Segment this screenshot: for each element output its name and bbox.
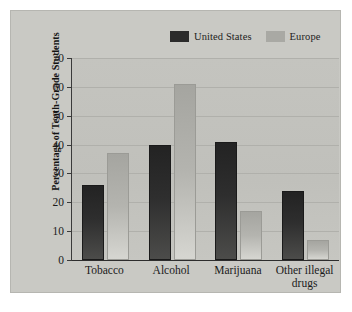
y-axis-tick-label: 40 bbox=[53, 139, 65, 151]
y-axis-tick-label: 70 bbox=[53, 52, 65, 64]
y-axis-tick bbox=[67, 116, 72, 117]
bar-alcohol-united-states bbox=[149, 145, 171, 260]
legend-label-europe: Europe bbox=[290, 31, 321, 42]
legend-entry-europe: Europe bbox=[266, 31, 321, 42]
gridline bbox=[72, 87, 339, 88]
y-axis-tick bbox=[67, 58, 72, 59]
y-axis-tick-label: 60 bbox=[53, 81, 65, 93]
legend-swatch-united-states bbox=[170, 31, 189, 42]
plot-area: 010203040506070 bbox=[71, 58, 339, 261]
y-axis-tick bbox=[67, 87, 72, 88]
chart-card: United States Europe Percentage of Tenth… bbox=[10, 10, 341, 293]
bar-marijuana-united-states bbox=[215, 142, 237, 260]
y-axis-tick-label: 10 bbox=[53, 225, 65, 237]
legend-entry-united-states: United States bbox=[170, 31, 252, 42]
gridline bbox=[72, 58, 339, 59]
legend-swatch-europe bbox=[266, 31, 285, 42]
y-axis-tick bbox=[67, 145, 72, 146]
chart-legend: United States Europe bbox=[170, 28, 321, 44]
y-axis-tick bbox=[67, 231, 72, 232]
x-axis-label-line: Other illegal bbox=[266, 264, 344, 277]
y-axis-tick-label: 30 bbox=[53, 167, 65, 179]
y-axis-tick-label: 50 bbox=[53, 110, 65, 122]
bar-other-illegal-drugs-united-states bbox=[282, 191, 304, 260]
y-axis-tick bbox=[67, 260, 72, 261]
bar-alcohol-europe bbox=[174, 84, 196, 260]
x-axis-label-line: drugs bbox=[266, 277, 344, 290]
bar-other-illegal-drugs-europe bbox=[307, 240, 329, 260]
y-axis-tick bbox=[67, 173, 72, 174]
y-axis-tick-label: 20 bbox=[53, 196, 65, 208]
gridline bbox=[72, 145, 339, 146]
y-axis-tick-label: 0 bbox=[58, 254, 64, 266]
bar-tobacco-europe bbox=[107, 153, 129, 260]
chart-figure: United States Europe Percentage of Tenth… bbox=[0, 0, 352, 312]
y-axis-tick bbox=[67, 202, 72, 203]
legend-label-united-states: United States bbox=[194, 31, 252, 42]
x-axis-label-other-illegal-drugs: Other illegaldrugs bbox=[266, 264, 344, 290]
bar-marijuana-europe bbox=[240, 211, 262, 260]
bar-tobacco-united-states bbox=[82, 185, 104, 260]
gridline bbox=[72, 116, 339, 117]
